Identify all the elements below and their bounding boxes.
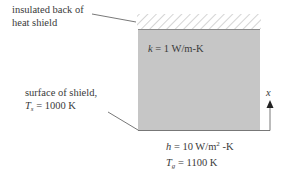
leader-line-surface bbox=[108, 112, 138, 130]
convection-label: h = 10 W/m2 -K Tg = 1100 K bbox=[166, 140, 234, 169]
insulated-back-line1: insulated back of bbox=[12, 3, 84, 16]
insulated-back-line2: heat shield bbox=[12, 16, 84, 29]
h-unit: -K bbox=[220, 141, 234, 152]
gas-temp: Tg = 1100 K bbox=[166, 156, 234, 169]
surface-label: surface of shield, Ts = 1000 K bbox=[25, 86, 97, 112]
conductivity-label: k = 1 W/m-K bbox=[148, 42, 204, 55]
h-coefficient: h = 10 W/m2 -K bbox=[166, 140, 234, 153]
surface-temp-value: = 1000 K bbox=[34, 100, 76, 111]
insulation-hatch bbox=[137, 14, 261, 29]
gas-temp-value: = 1100 K bbox=[175, 157, 217, 168]
x-axis-label: x bbox=[266, 86, 271, 99]
arrowhead-icon bbox=[267, 100, 274, 108]
x-axis-arrow bbox=[262, 106, 270, 131]
x-axis-symbol: x bbox=[266, 87, 271, 98]
insulated-back-label: insulated back of heat shield bbox=[12, 3, 84, 29]
surface-line1: surface of shield, bbox=[25, 86, 97, 99]
conductivity-value: = 1 W/m-K bbox=[153, 43, 204, 54]
leader-line-back bbox=[92, 14, 136, 22]
surface-temp: Ts = 1000 K bbox=[25, 99, 97, 112]
h-value: = 10 W/m bbox=[171, 141, 216, 152]
